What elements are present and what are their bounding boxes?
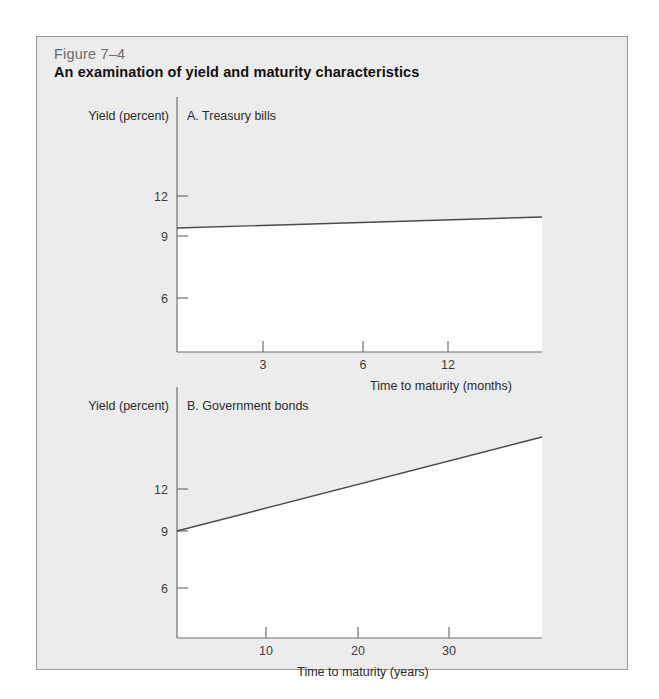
chart-a-panel-label: A. Treasury bills bbox=[187, 109, 276, 123]
chart-a-ytick-label-9: 9 bbox=[161, 230, 168, 244]
chart-a-ytick-label-6: 6 bbox=[161, 292, 168, 306]
chart-a-y-axis-label: Yield (percent) bbox=[88, 109, 169, 123]
chart-a-xtick-label-6: 6 bbox=[360, 358, 367, 372]
figure-frame: Figure 7–4 An examination of yield and m… bbox=[36, 36, 628, 670]
figure-number: Figure 7–4 bbox=[54, 45, 419, 63]
chart-panel-b: 12 9 6 10 20 30 Time to maturity (years)… bbox=[37, 385, 629, 655]
chart-b-x-axis-label: Time to maturity (years) bbox=[297, 665, 429, 679]
figure-header: Figure 7–4 An examination of yield and m… bbox=[54, 45, 419, 82]
chart-b-svg: 12 9 6 10 20 30 Time to maturity (years)… bbox=[37, 385, 629, 655]
chart-a-svg: 12 9 6 3 6 12 Time to maturity (months) … bbox=[37, 95, 629, 355]
chart-a-plot-area bbox=[177, 217, 542, 352]
chart-a-ytick-label-12: 12 bbox=[154, 190, 168, 204]
chart-b-ytick-label-6: 6 bbox=[161, 582, 168, 596]
chart-b-y-axis-label: Yield (percent) bbox=[88, 399, 169, 413]
chart-b-plot-area bbox=[177, 437, 542, 638]
chart-a-xtick-label-12: 12 bbox=[441, 358, 455, 372]
chart-b-ytick-label-12: 12 bbox=[154, 483, 168, 497]
chart-b-xtick-label-10: 10 bbox=[259, 644, 273, 658]
chart-b-panel-label: B. Government bonds bbox=[187, 399, 309, 413]
chart-b-ytick-label-9: 9 bbox=[161, 525, 168, 539]
chart-b-xtick-label-30: 30 bbox=[442, 644, 456, 658]
chart-panel-a: 12 9 6 3 6 12 Time to maturity (months) … bbox=[37, 95, 629, 355]
chart-b-xtick-label-20: 20 bbox=[351, 644, 365, 658]
figure-title: An examination of yield and maturity cha… bbox=[54, 63, 419, 82]
chart-a-xtick-label-3: 3 bbox=[260, 358, 267, 372]
